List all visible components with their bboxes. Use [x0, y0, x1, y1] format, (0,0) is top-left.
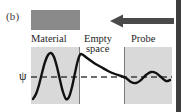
page-edge-strip	[176, 0, 181, 112]
material-block-swatch	[31, 10, 80, 30]
label-probe: Probe	[131, 33, 156, 44]
psi-axis-symbol: ψ	[19, 69, 27, 84]
panel-label: (b)	[6, 10, 19, 22]
probe-arrow-icon	[110, 14, 174, 28]
wavefunction-plot	[31, 47, 172, 104]
wavefunction-curve-svg	[31, 47, 172, 104]
psi-wavefunction-path	[33, 53, 170, 99]
label-material: Material	[31, 33, 67, 44]
figure-panel-b: (b) Material Empty space Probe ψ	[0, 0, 181, 112]
